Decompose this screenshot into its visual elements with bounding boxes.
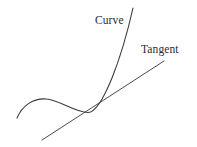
- curve-label: Curve: [95, 15, 124, 27]
- tangent-label: Tangent: [141, 44, 179, 56]
- figure-container: Curve Tangent: [0, 0, 197, 147]
